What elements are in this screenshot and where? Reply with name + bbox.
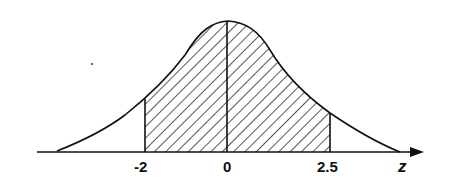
normal-distribution-diagram: -2 0 2.5 z: [0, 0, 452, 187]
stray-dot: [91, 63, 93, 65]
axis-arrow-icon: [410, 147, 424, 157]
axis-label: z: [397, 157, 407, 176]
tick-label-right: 2.5: [317, 158, 338, 175]
shaded-area: [57, 21, 400, 152]
tick-label-left: -2: [134, 158, 147, 175]
tick-label-center: 0: [223, 158, 231, 175]
